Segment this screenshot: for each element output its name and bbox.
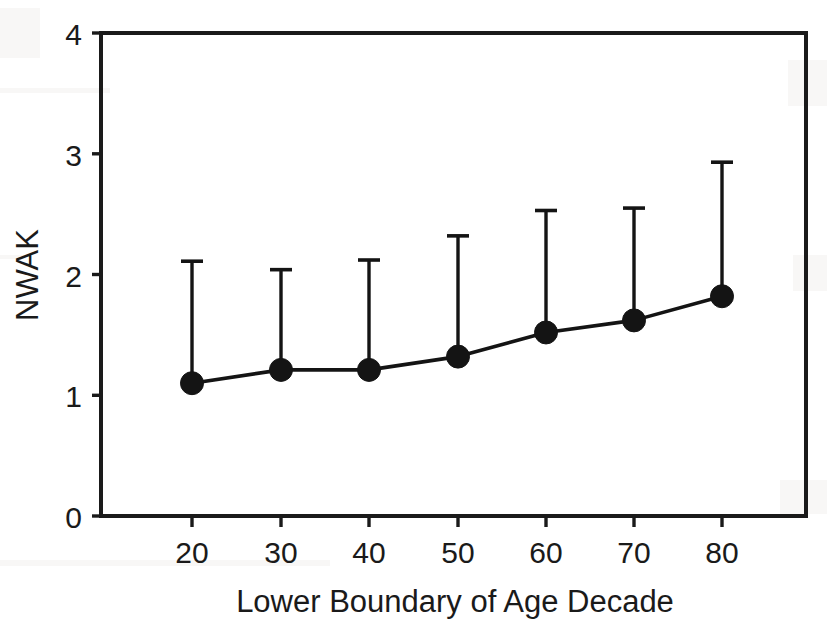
y-axis-title: NWAK [10,229,45,321]
y-tick-label-2: 2 [65,260,82,293]
error-bar-60 [535,211,557,333]
x-tick-label-1: 30 [264,536,297,569]
data-point-70 [623,309,646,332]
error-bar-30 [270,270,292,370]
y-tick-label-1: 1 [65,380,82,413]
error-bar-70 [623,208,645,320]
y-tick-label-0: 0 [65,501,82,534]
series-NWAK [181,162,734,394]
data-point-50 [447,345,470,368]
data-point-40 [358,358,381,381]
error-bar-20 [181,261,203,383]
error-bar-50 [447,236,469,357]
chart-svg: 4 3 2 1 0 NWAK 20 30 40 50 60 70 [0,0,827,628]
data-point-20 [181,372,204,395]
y-axis-title-group: NWAK [10,229,45,321]
error-bar-80 [711,162,733,296]
error-bar-40 [358,260,380,370]
axis-box [101,33,806,516]
plot-frame [101,33,806,516]
x-tick-label-3: 50 [441,536,474,569]
x-tick-label-2: 40 [352,536,385,569]
data-point-60 [535,321,558,344]
y-tick-label-4: 4 [65,18,82,51]
x-axis-title: Lower Boundary of Age Decade [236,584,674,619]
x-axis-tick-labels: 20 30 40 50 60 70 80 [175,536,738,569]
x-tick-label-6: 80 [705,536,738,569]
x-tick-label-0: 20 [175,536,208,569]
x-tick-label-5: 70 [617,536,650,569]
x-tick-label-4: 60 [529,536,562,569]
data-point-80 [711,285,734,308]
data-series-layer [181,162,734,394]
data-point-30 [270,358,293,381]
y-axis-tick-labels: 4 3 2 1 0 [65,18,82,534]
figure-container: 4 3 2 1 0 NWAK 20 30 40 50 60 70 [0,0,827,628]
y-tick-label-3: 3 [65,139,82,172]
